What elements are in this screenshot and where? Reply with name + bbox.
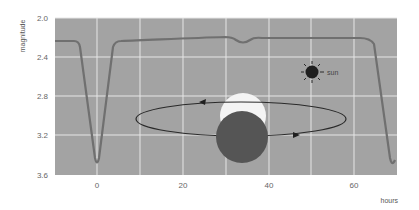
x-axis-label: hours <box>380 197 398 204</box>
y-tick: 2.0 <box>37 14 49 23</box>
x-tick: 60 <box>350 181 359 190</box>
x-axis: 0 20 40 60 hours <box>95 181 399 204</box>
y-axis: 2.0 2.4 2.8 3.2 3.6 magnitude <box>19 14 49 180</box>
x-tick: 20 <box>179 181 188 190</box>
dark-companion-star <box>216 111 268 163</box>
y-tick: 3.2 <box>37 131 49 140</box>
y-tick: 2.4 <box>37 53 49 62</box>
x-tick: 40 <box>265 181 274 190</box>
y-tick: 3.6 <box>37 171 49 180</box>
light-curve-chart: sun 2.0 2.4 2.8 3.2 3.6 magnitude 0 20 4… <box>0 0 419 210</box>
y-tick: 2.8 <box>37 92 49 101</box>
y-axis-label: magnitude <box>19 20 27 53</box>
x-tick: 0 <box>95 181 100 190</box>
sun-label: sun <box>327 69 338 76</box>
